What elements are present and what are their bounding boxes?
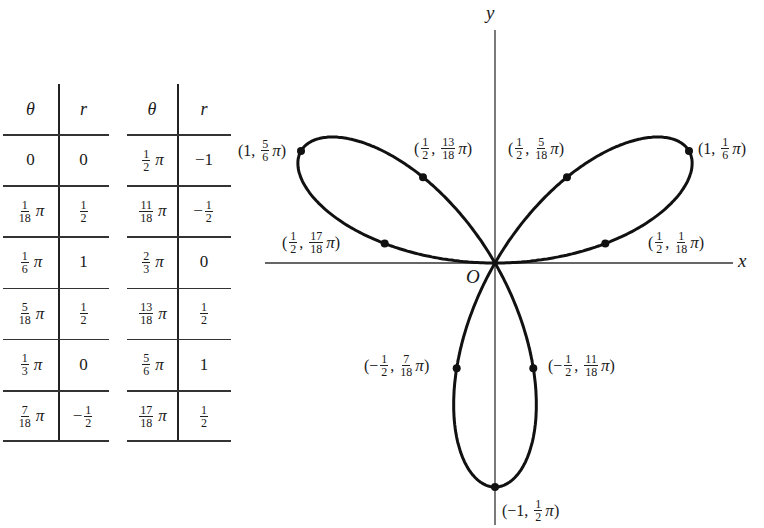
fraction: 12 [534,498,542,523]
point-label-p_1_18: (12, 118π) [648,230,704,255]
fraction: 1118 [584,353,598,378]
point-label-p_7_18: (−12, 718π) [364,353,429,378]
polar-graph [0,0,764,528]
fraction: 1718 [309,230,323,255]
point-label-p_1_2: (−1, 12π) [502,498,559,523]
fraction: 118 [675,230,687,255]
fraction: 12 [289,230,297,255]
point-marker [419,173,427,181]
point-label-p_5_6: (1, 56π) [238,138,286,163]
point-marker [529,364,537,372]
point-marker [453,364,461,372]
fraction: 12 [515,136,523,161]
x-axis-label: x [738,250,746,272]
point-label-p_13_18: (12, 1318π) [414,136,472,161]
point-label-p_11_18: (−12, 1118π) [548,353,615,378]
fraction: 12 [655,230,663,255]
fraction: 718 [400,353,412,378]
fraction: 1318 [441,136,455,161]
point-marker [297,147,305,155]
fraction: 12 [421,136,429,161]
fraction: 56 [261,138,269,163]
y-axis-label: y [486,2,494,24]
point-label-p_5_18: (12, 518π) [508,136,564,161]
fraction: 12 [564,353,572,378]
origin-label: O [466,266,480,288]
fraction: 12 [380,353,388,378]
point-label-p_17_18: (12, 1718π) [282,230,340,255]
point-marker [685,147,693,155]
point-label-p_1_6: (1, 16π) [698,136,746,161]
point-marker [491,483,499,491]
point-marker [601,240,609,248]
point-marker [563,173,571,181]
point-marker [381,240,389,248]
fraction: 16 [721,136,729,161]
fraction: 518 [535,136,547,161]
